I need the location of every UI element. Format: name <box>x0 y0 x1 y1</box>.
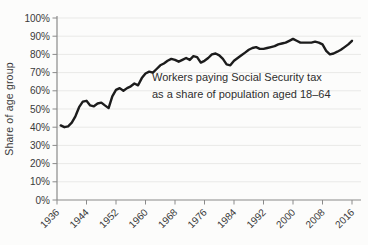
x-tick-label: 2008 <box>303 206 327 230</box>
y-tick-label: 40% <box>30 122 50 133</box>
x-tick-label: 1984 <box>215 206 239 230</box>
y-tick-label: 70% <box>30 67 50 78</box>
y-tick-label: 10% <box>30 176 50 187</box>
y-tick-label: 100% <box>24 13 50 24</box>
y-tick-label: 0% <box>36 195 51 206</box>
annotation-line-2: as a share of population aged 18–64 <box>152 86 331 103</box>
x-tick-label: 2016 <box>333 206 357 230</box>
y-tick-label: 30% <box>30 140 50 151</box>
annotation-line-1: Workers paying Social Security tax <box>152 69 331 86</box>
x-tick-label: 1976 <box>185 206 209 230</box>
x-tick-label: 1944 <box>67 206 91 230</box>
x-tick-label: 1952 <box>97 206 121 230</box>
x-tick-label: 1992 <box>244 206 268 230</box>
y-tick-label: 80% <box>30 49 50 60</box>
x-tick-label: 2000 <box>274 206 298 230</box>
y-tick-label: 90% <box>30 31 50 42</box>
social-security-coverage-chart: 0%10%20%30%40%50%60%70%80%90%100%1936194… <box>0 0 368 245</box>
line-chart-plot: 0%10%20%30%40%50%60%70%80%90%100%1936194… <box>0 0 368 245</box>
x-tick-label: 1936 <box>38 206 62 230</box>
y-axis-title: Share of age group <box>3 14 19 204</box>
y-tick-label: 20% <box>30 158 50 169</box>
y-tick-label: 60% <box>30 85 50 96</box>
x-tick-label: 1960 <box>126 206 150 230</box>
chart-annotation: Workers paying Social Security tax as a … <box>152 69 331 103</box>
x-tick-label: 1968 <box>156 206 180 230</box>
y-tick-label: 50% <box>30 104 50 115</box>
